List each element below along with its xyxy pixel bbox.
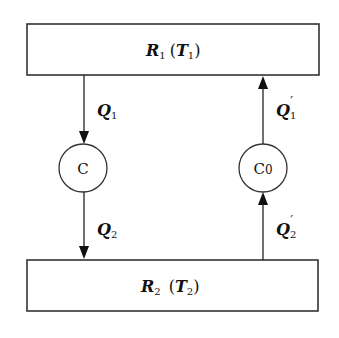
- flow-q2-prime-arrow: Q2′: [258, 192, 296, 260]
- engine-c0: C0: [239, 144, 287, 192]
- engine-c: C: [59, 144, 107, 192]
- svg-text:Q1: Q1: [97, 101, 117, 121]
- svg-text:Q1′: Q1′: [276, 95, 296, 121]
- flow-q1-prime-arrow: Q1′: [258, 76, 296, 144]
- flow-q2-arrow: Q2: [79, 192, 117, 259]
- flow-q1-arrow: Q1: [79, 75, 117, 144]
- heat-engine-diagram: R1(T1) R2(T2) Q1 C Q2 Q1′: [0, 0, 339, 338]
- svg-text:Q2′: Q2′: [276, 214, 296, 240]
- svg-text:C0: C0: [253, 160, 272, 178]
- bottom-reservoir: R2(T2): [27, 260, 318, 311]
- top-reservoir: R1(T1): [27, 24, 319, 75]
- svg-text:C: C: [77, 160, 88, 178]
- svg-text:Q2: Q2: [97, 220, 117, 240]
